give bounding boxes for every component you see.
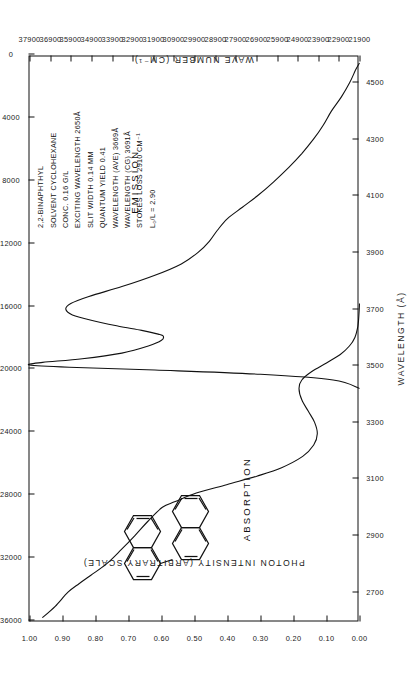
y-tick (29, 615, 30, 621)
y-tick (260, 615, 261, 621)
y2-tick (28, 53, 34, 54)
y-tick (62, 615, 63, 621)
x-tick (352, 81, 358, 82)
x-tick-label: 4300 (366, 134, 384, 143)
x-tick-label: 3300 (366, 417, 384, 426)
y2-tick-label: 4000 (2, 112, 20, 121)
y-tick-label: 0.50 (186, 634, 202, 643)
x-tick-label: 3700 (366, 304, 384, 313)
x2-tick (91, 55, 92, 61)
y-tick-label: 0.70 (120, 634, 136, 643)
x2-tick-label: 33900 (100, 35, 122, 44)
y-tick-label: 0.20 (285, 634, 301, 643)
x-axis-title: WAVELENGTH (Å) (395, 291, 405, 385)
y-tick-label: 0.00 (351, 634, 367, 643)
x2-tick (70, 55, 71, 61)
x-tick-label: 4500 (366, 78, 384, 87)
y-tick (95, 615, 96, 621)
x2-tick-label: 27900 (224, 35, 246, 44)
x2-tick (29, 55, 30, 61)
x2-tick-label: 30900 (162, 35, 184, 44)
x-tick (352, 421, 358, 422)
x2-tick (194, 55, 195, 61)
y-tick-label: 0.90 (54, 634, 70, 643)
x-tick-label: 4100 (366, 191, 384, 200)
x2-tick-label: 25900 (265, 35, 287, 44)
y2-tick (28, 367, 34, 368)
x-tick (352, 591, 358, 592)
y2-tick-label: 16000 (0, 301, 22, 310)
x2-tick-label: 23900 (307, 35, 329, 44)
x2-tick-label: 36900 (39, 35, 61, 44)
x2-tick-label: 37900 (18, 35, 40, 44)
x-tick-label: 3500 (366, 361, 384, 370)
x2-tick (297, 55, 298, 61)
y2-tick (28, 430, 34, 431)
x-tick (352, 251, 358, 252)
y2-tick-label: 12000 (0, 238, 22, 247)
y2-tick (28, 242, 34, 243)
spectrum-figure: WAVELENGTH (Å) MOLAR EXTINCTION COEFFICI… (0, 0, 409, 683)
x2-tick (277, 55, 278, 61)
x-tick (352, 478, 358, 479)
x2-tick (338, 55, 339, 61)
y-tick-label: 0.10 (318, 634, 334, 643)
x2-tick-label: 29900 (183, 35, 205, 44)
y-tick (161, 615, 162, 621)
x-tick (352, 195, 358, 196)
x2-tick (112, 55, 113, 61)
y-tick (326, 615, 327, 621)
x-tick-label: 2900 (366, 531, 384, 540)
y2-tick-label: 32000 (0, 553, 22, 562)
y-tick (293, 615, 294, 621)
y2-tick (28, 179, 34, 180)
x2-tick (359, 55, 360, 61)
x2-tick-label: 35900 (59, 35, 81, 44)
y2-tick (28, 556, 34, 557)
y-tick-label: 0.60 (153, 634, 169, 643)
absorption-curve (42, 303, 359, 617)
x-tick-label: 3900 (366, 248, 384, 257)
y-tick-label: 0.30 (252, 634, 268, 643)
x-tick (352, 534, 358, 535)
x2-tick (50, 55, 51, 61)
x2-tick-label: 28900 (204, 35, 226, 44)
spectra-curves (29, 54, 359, 620)
x2-tick-label: 21900 (348, 35, 370, 44)
x2-tick-label: 26900 (245, 35, 267, 44)
x2-tick-label: 32900 (121, 35, 143, 44)
y-tick-label: 0.40 (219, 634, 235, 643)
y2-tick (28, 493, 34, 494)
y-tick-label: 0.80 (87, 634, 103, 643)
y2-tick-label: 24000 (0, 427, 22, 436)
x2-tick (215, 55, 216, 61)
emission-curve (28, 63, 359, 388)
y2-tick (28, 116, 34, 117)
plot-area: WAVELENGTH (Å) MOLAR EXTINCTION COEFFICI… (28, 55, 358, 621)
x2-tick-label: 31900 (142, 35, 164, 44)
x2-tick-label: 24900 (286, 35, 308, 44)
y2-tick-label: 8000 (2, 175, 20, 184)
y2-tick-label: 28000 (0, 490, 22, 499)
x2-tick-label: 34900 (80, 35, 102, 44)
y2-tick-label: 20000 (0, 364, 22, 373)
y2-tick-label: 0 (8, 50, 12, 59)
y2-tick (28, 305, 34, 306)
x-tick (352, 308, 358, 309)
x2-tick-label: 22900 (327, 35, 349, 44)
x2-tick (173, 55, 174, 61)
x2-tick (318, 55, 319, 61)
y-tick (359, 615, 360, 621)
x2-tick (153, 55, 154, 61)
y-tick (227, 615, 228, 621)
y2-tick-label: 36000 (0, 616, 22, 625)
x2-tick (235, 55, 236, 61)
y-tick (194, 615, 195, 621)
x-tick-label: 3100 (366, 474, 384, 483)
y-tick (128, 615, 129, 621)
x-tick (352, 364, 358, 365)
x-tick (352, 138, 358, 139)
x-tick-label: 2700 (366, 587, 384, 596)
y-tick-label: 1.00 (21, 634, 37, 643)
x2-tick (132, 55, 133, 61)
